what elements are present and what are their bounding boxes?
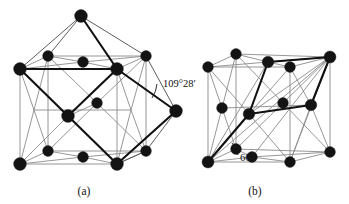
- atom-apex-top-a: [75, 10, 88, 23]
- panel-a: 109°28′ (a): [14, 10, 196, 198]
- bold-bond-ftr-apexright-a: [117, 69, 176, 111]
- atom-front-top-left-b: [203, 62, 214, 73]
- atom-front-bottom-left-b: [202, 156, 214, 168]
- atom-top-face-centre-a: [78, 57, 89, 68]
- atom-right-face-centre-b: [305, 99, 317, 111]
- apex-right-to-bbr-a: [146, 111, 176, 151]
- atom-back-bottom-left-b: [231, 144, 242, 155]
- panel-b: 60° (b): [202, 49, 336, 198]
- atom-front-face-centre-a: [62, 110, 75, 123]
- atom-back-face-centre-b: [278, 98, 289, 109]
- apex-top-to-ftl-a: [20, 16, 81, 69]
- atom-back-bottom-left-a: [43, 146, 54, 157]
- bold-bond-frontcentre-fbr-a: [68, 116, 117, 164]
- bold-bond-ftl-frontcentre-a: [20, 69, 68, 116]
- atom-top-face-centre-b: [262, 56, 274, 68]
- atom-front-top-right-b: [285, 62, 296, 73]
- angle-label-109: 109°28′: [163, 78, 196, 89]
- atom-back-bottom-right-b: [325, 147, 336, 158]
- panel-a-outer-links: [20, 16, 176, 164]
- atom-back-top-right-a: [141, 51, 152, 62]
- bold-bond-frontcentre-ftr-a: [68, 69, 117, 116]
- atom-front-top-right-a: [111, 63, 124, 76]
- right-centre-links-back-a: [131, 56, 146, 151]
- caption-b: (b): [248, 185, 262, 198]
- atom-back-top-left-a: [43, 51, 54, 62]
- atom-bottom-face-centre-a: [78, 152, 89, 163]
- atom-front-bottom-right-a: [111, 158, 124, 171]
- bottom-centre-links-front-a: [20, 157, 117, 164]
- atom-front-top-left-a: [14, 63, 27, 76]
- atom-back-top-left-b: [231, 49, 242, 60]
- left-centre-links-back-a: [34, 56, 48, 151]
- apex-top-to-btl-a: [48, 16, 81, 56]
- top-centre-links-back-a: [48, 56, 146, 62]
- atom-apex-right-a: [170, 105, 183, 118]
- crystal-structure-figure: 109°28′ (a): [0, 0, 349, 204]
- atom-left-face-centre-b: [217, 103, 228, 114]
- figure-svg: 109°28′ (a): [0, 0, 349, 204]
- left-centre-links-front-a: [20, 69, 34, 164]
- right-centre-links-front-a: [117, 69, 131, 164]
- panel-a-face-centre-links: [20, 56, 146, 164]
- atom-front-face-centre-b: [243, 108, 255, 120]
- apex-top-to-btr-a: [81, 16, 146, 56]
- atom-back-face-centre-a: [92, 98, 103, 109]
- atom-back-bottom-right-a: [141, 146, 152, 157]
- atom-back-top-right-b: [324, 51, 336, 63]
- caption-a: (a): [78, 185, 91, 198]
- atom-bottom-face-centre-b: [247, 152, 258, 163]
- top-centre-links-front-b: [208, 62, 290, 67]
- atom-front-bottom-right-b: [285, 157, 296, 168]
- atom-front-bottom-left-a: [14, 158, 27, 171]
